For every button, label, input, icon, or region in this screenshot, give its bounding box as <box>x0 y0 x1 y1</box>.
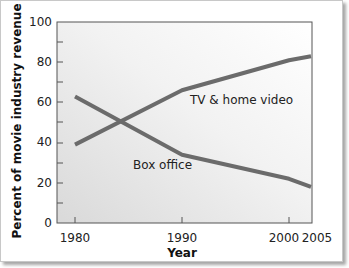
y-tick-80: 80 <box>37 55 52 69</box>
y-tick-60: 60 <box>37 95 52 109</box>
x-tick-labels: 1980 1990 2000 2005 <box>60 231 333 245</box>
x-tick-1980: 1980 <box>60 231 91 245</box>
plot-area <box>57 22 312 223</box>
x-tick-2000: 2000 <box>269 231 300 245</box>
y-tick-100: 100 <box>29 15 52 29</box>
y-axis-title: Percent of movie industry revenue <box>10 3 24 238</box>
y-tick-0: 0 <box>44 216 52 230</box>
x-tick-2005: 2005 <box>302 231 333 245</box>
y-tick-40: 40 <box>37 135 52 149</box>
series-label-box-office: Box office <box>133 158 192 172</box>
y-tick-labels: 0 20 40 60 80 100 <box>29 15 52 230</box>
x-axis-title: Year <box>166 246 197 260</box>
series-label-tv-home-video: TV & home video <box>189 93 293 107</box>
line-chart: 0 20 40 60 80 100 1980 1990 2000 2005 Ye… <box>0 0 349 268</box>
y-tick-20: 20 <box>37 176 52 190</box>
x-tick-1990: 1990 <box>167 231 198 245</box>
